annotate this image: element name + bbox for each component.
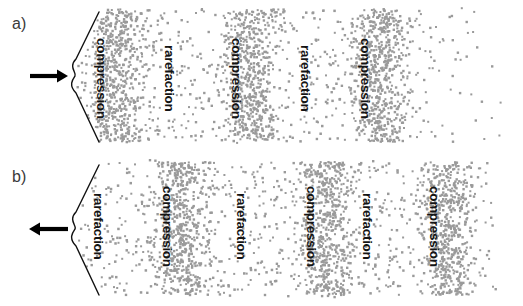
band-label-rarefaction: rarefaction: [92, 193, 106, 259]
panel-label-a: a): [12, 15, 26, 33]
motion-arrow-a: [0, 0, 523, 153]
band-label-compression: compression: [428, 186, 442, 267]
band-label-compression: compression: [161, 186, 175, 267]
panel-a: a) compressionrarefactioncompressionrare…: [0, 0, 523, 153]
band-label-compression: compression: [359, 38, 373, 119]
band-label-rarefaction: rarefaction: [235, 193, 249, 259]
band-label-compression: compression: [95, 38, 109, 119]
band-label-compression: compression: [305, 186, 319, 267]
motion-arrow-b: [0, 153, 523, 306]
sound-wave-doppler-figure: a) compressionrarefactioncompressionrare…: [0, 0, 523, 306]
band-label-rarefaction: rarefaction: [163, 45, 177, 111]
band-label-compression: compression: [230, 38, 244, 119]
panel-label-b: b): [12, 168, 26, 186]
panel-b: b) rarefactioncompressionrarefactioncomp…: [0, 153, 523, 306]
band-label-rarefaction: rarefaction: [361, 193, 375, 259]
band-label-rarefaction: rarefaction: [299, 45, 313, 111]
